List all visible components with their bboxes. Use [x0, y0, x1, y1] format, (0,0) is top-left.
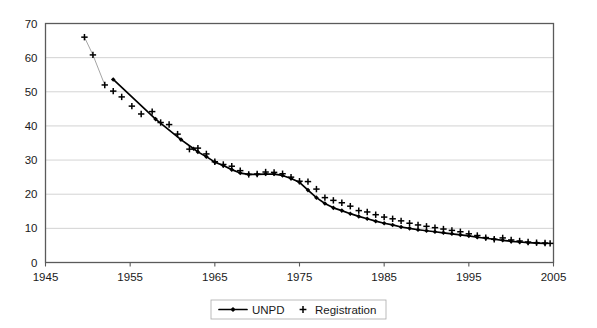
- x-tick-label-1955: 1955: [117, 271, 143, 283]
- x-tick-label-1945: 1945: [33, 271, 59, 283]
- x-tick-label-1995: 1995: [456, 271, 482, 283]
- y-tick-label-70: 70: [25, 18, 38, 30]
- y-tick-label-40: 40: [25, 120, 38, 132]
- y-tick-label-50: 50: [25, 86, 38, 98]
- legend-label-unpd: UNPD: [252, 304, 285, 316]
- y-tick-label-30: 30: [25, 154, 38, 166]
- x-tick-label-2005: 2005: [541, 271, 567, 283]
- chart-figure: 1945195519651975198519952005 01020304050…: [0, 0, 597, 328]
- y-tick-label-20: 20: [25, 188, 38, 200]
- chart-legend: UNPDRegistration: [211, 300, 386, 319]
- legend-label-registration: Registration: [315, 304, 376, 316]
- y-tick-label-10: 10: [25, 222, 38, 234]
- y-tick-label-0: 0: [31, 257, 37, 269]
- x-tick-label-1975: 1975: [287, 271, 313, 283]
- y-tick-label-60: 60: [25, 52, 38, 64]
- x-tick-label-1965: 1965: [202, 271, 228, 283]
- chart-canvas: 1945195519651975198519952005 01020304050…: [0, 0, 597, 328]
- x-tick-label-1985: 1985: [371, 271, 397, 283]
